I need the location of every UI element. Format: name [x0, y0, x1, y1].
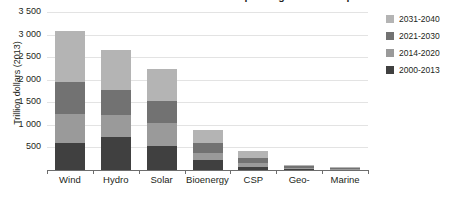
bar-segment[interactable] [284, 168, 314, 169]
bar-segment[interactable] [330, 167, 360, 168]
bar-segment[interactable] [147, 69, 177, 101]
bar-segment[interactable] [238, 151, 268, 158]
y-axis-tick-label: 3 000 [0, 29, 41, 39]
y-axis-tick-label: 2 500 [0, 51, 41, 61]
chart-title: Cumulative investment in renewable power… [60, 0, 360, 2]
legend-item-label: 2000-2013 [399, 65, 440, 75]
y-axis-tick-label: 3 500 [0, 6, 41, 16]
bar-stack[interactable] [193, 12, 223, 170]
x-axis-label-hydro: Hydro [93, 174, 139, 185]
legend-swatch-icon [386, 66, 394, 74]
y-axis-tick-label: 500 [0, 141, 41, 151]
y-axis-tick-label: 1 000 [0, 119, 41, 129]
bar-segment[interactable] [193, 130, 223, 144]
bar-stack[interactable] [147, 12, 177, 170]
legend-item[interactable]: 2021-2030 [386, 27, 454, 44]
bar-segment[interactable] [284, 166, 314, 167]
x-axis-label-wind: Wind [47, 174, 93, 185]
legend-item-label: 2014-2020 [399, 48, 440, 58]
y-axis-tick-label: 1 500 [0, 96, 41, 106]
bar-segment[interactable] [55, 31, 85, 82]
legend-item[interactable]: 2014-2020 [386, 44, 454, 61]
bar-segment[interactable] [330, 168, 360, 169]
legend-swatch-icon [386, 15, 394, 23]
x-axis-line [47, 170, 368, 171]
bar-segment[interactable] [101, 50, 131, 89]
bar-segment[interactable] [238, 163, 268, 168]
bar-segment[interactable] [147, 101, 177, 123]
legend-swatch-icon [386, 49, 394, 57]
bar-segment[interactable] [101, 90, 131, 115]
bar-segment[interactable] [193, 143, 223, 152]
x-axis-tick [368, 170, 369, 174]
x-axis-label-solar: Solar [139, 174, 185, 185]
chart-legend: 2031-20402021-20302014-20202000-2013 [386, 10, 454, 78]
legend-swatch-icon [386, 32, 394, 40]
bar-segment[interactable] [101, 115, 131, 137]
chart-root: Cumulative investment in renewable power… [0, 0, 454, 197]
bar-segment[interactable] [238, 158, 268, 163]
x-axis-label-marine: Marine [322, 174, 368, 185]
bar-stack[interactable] [55, 12, 85, 170]
legend-item[interactable]: 2000-2013 [386, 61, 454, 78]
bar-segment[interactable] [193, 153, 223, 160]
y-axis-tick-label: 2 000 [0, 74, 41, 84]
bar-segment[interactable] [55, 82, 85, 114]
bar-segment[interactable] [55, 143, 85, 170]
bar-segment[interactable] [55, 114, 85, 143]
bar-segment[interactable] [193, 160, 223, 170]
bar-segment[interactable] [284, 165, 314, 166]
legend-item-label: 2021-2030 [399, 31, 440, 41]
legend-item[interactable]: 2031-2040 [386, 10, 454, 27]
bar-stack[interactable] [330, 12, 360, 170]
x-axis-label-bioenergy: Bioenergy [185, 174, 231, 185]
x-axis-label-csp: CSP [230, 174, 276, 185]
bar-segment[interactable] [101, 137, 131, 170]
legend-item-label: 2031-2040 [399, 14, 440, 24]
bar-stack[interactable] [284, 12, 314, 170]
bar-segment[interactable] [147, 123, 177, 146]
bar-segment[interactable] [147, 146, 177, 170]
plot-area [47, 12, 368, 170]
bar-stack[interactable] [101, 12, 131, 170]
x-axis-label-geo: Geo- [276, 174, 322, 185]
bar-stack[interactable] [238, 12, 268, 170]
